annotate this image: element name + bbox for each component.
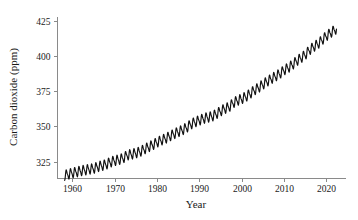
x-tick-label: 2000: [233, 184, 252, 194]
chart-background: [0, 0, 358, 220]
x-tick-label: 1980: [148, 184, 167, 194]
x-tick-label: 1970: [106, 184, 125, 194]
x-tick-label: 2010: [275, 184, 294, 194]
x-tick-label: 1990: [190, 184, 209, 194]
y-tick-label: 400: [36, 52, 51, 62]
y-tick-label: 325: [36, 158, 51, 168]
x-tick-label: 2020: [317, 184, 336, 194]
chart-figure: 325350375400425 196019701980199020002010…: [0, 0, 358, 220]
y-axis-title: Carbon dioxide (ppm): [7, 48, 20, 146]
y-tick-label: 375: [36, 87, 51, 97]
y-tick-label: 425: [36, 17, 51, 27]
y-tick-label: 350: [36, 122, 51, 132]
x-tick-label: 1960: [63, 184, 82, 194]
x-axis-title: Year: [186, 198, 207, 210]
keeling-curve-chart: 325350375400425 196019701980199020002010…: [0, 0, 358, 220]
